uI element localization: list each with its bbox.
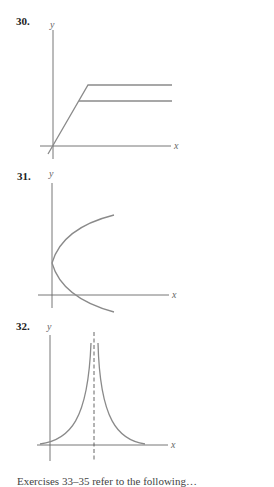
graph-31: y x	[38, 168, 177, 312]
y-axis-label: y	[49, 19, 55, 30]
graph-30: y x	[40, 19, 179, 159]
right-curve	[98, 343, 145, 444]
upper-curve	[48, 85, 172, 154]
parabola-upper-branch	[52, 215, 114, 263]
graph-32: y x	[37, 321, 176, 461]
y-axis-label: y	[46, 321, 52, 332]
x-axis-label: x	[173, 140, 179, 151]
parabola-lower-branch	[52, 263, 114, 312]
footer-text: Exercises 33–35 refer to the following…	[17, 475, 197, 487]
y-axis-label: y	[48, 168, 54, 179]
x-axis-label: x	[170, 439, 176, 450]
left-curve	[40, 343, 91, 444]
x-axis-label: x	[171, 289, 177, 300]
